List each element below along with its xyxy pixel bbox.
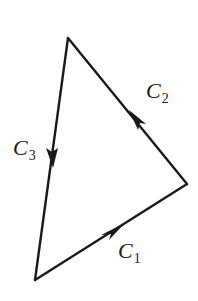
curve-c3: [35, 38, 68, 280]
label-c2-letter: C: [146, 78, 161, 103]
label-c1-subscript: 1: [134, 251, 141, 266]
arrow-c2-icon: [129, 110, 146, 130]
label-c3-subscript: 3: [29, 148, 36, 163]
curve-c1: [35, 184, 187, 280]
curve-c2: [68, 38, 187, 184]
label-c1-letter: C: [118, 238, 133, 263]
label-c2: C2: [146, 80, 169, 102]
label-c3-letter: C: [13, 135, 28, 160]
label-c3: C3: [13, 137, 36, 159]
label-c1: C1: [118, 240, 141, 262]
label-c2-subscript: 2: [162, 91, 169, 106]
triangle-path-diagram: C1 C2 C3: [0, 0, 198, 301]
